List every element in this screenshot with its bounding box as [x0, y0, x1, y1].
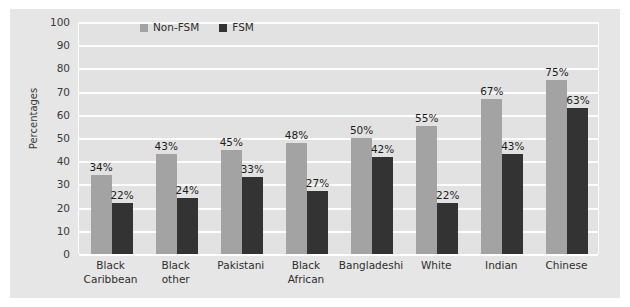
- legend-swatch-icon: [219, 24, 227, 32]
- bar-non-fsm[interactable]: 45%: [221, 150, 242, 254]
- bar-fsm[interactable]: 43%: [502, 154, 523, 254]
- bar-group: 67%43%: [481, 23, 523, 254]
- bar-non-fsm[interactable]: 34%: [91, 175, 112, 254]
- x-axis-label-indian: Indian: [469, 258, 534, 272]
- bar-value-label: 45%: [220, 137, 243, 148]
- legend-item-label: FSM: [232, 22, 254, 33]
- y-axis-title: Percentages: [28, 74, 39, 164]
- x-axis-label-line1: Black: [96, 259, 124, 271]
- legend-item-label: Non-FSM: [153, 22, 199, 33]
- y-axis-tick-50: 50: [44, 133, 70, 144]
- bar-non-fsm[interactable]: 43%: [156, 154, 177, 254]
- chart-legend: Non-FSMFSM: [140, 22, 254, 33]
- bars-layer: 34%22%43%24%45%33%48%27%50%42%55%22%67%4…: [79, 23, 598, 254]
- bar-value-label: 48%: [285, 130, 308, 141]
- x-axis-label-line1: Chinese: [545, 259, 587, 271]
- bar-value-label: 43%: [155, 141, 178, 152]
- y-axis-tick-100: 100: [44, 17, 70, 28]
- legend-swatch-icon: [140, 24, 148, 32]
- bar-fsm[interactable]: 27%: [307, 191, 328, 254]
- gridline-0: [79, 254, 598, 256]
- bar-value-label: 34%: [89, 162, 112, 173]
- bar-non-fsm[interactable]: 48%: [286, 143, 307, 254]
- bar-value-label: 22%: [436, 190, 459, 201]
- bar-fsm[interactable]: 63%: [567, 108, 588, 254]
- x-axis-label-line1: Bangladeshi: [339, 259, 403, 271]
- bar-group: 50%42%: [351, 23, 393, 254]
- x-axis-label-line2: other: [143, 272, 208, 286]
- bar-value-label: 63%: [566, 95, 589, 106]
- legend-item-fsm[interactable]: FSM: [219, 22, 254, 33]
- bar-non-fsm[interactable]: 50%: [351, 138, 372, 254]
- y-axis-tick-10: 10: [44, 225, 70, 236]
- bar-value-label: 50%: [350, 125, 373, 136]
- x-axis-label-line1: Pakistani: [217, 259, 264, 271]
- x-axis-tick-labels: BlackCaribbeanBlackotherPakistaniBlackAf…: [78, 258, 599, 298]
- bar-group: 45%33%: [221, 23, 263, 254]
- bar-group: 34%22%: [91, 23, 133, 254]
- bar-fsm[interactable]: 42%: [372, 157, 393, 254]
- bar-fsm[interactable]: 33%: [242, 177, 263, 254]
- x-axis-label-line2: Caribbean: [78, 272, 143, 286]
- x-axis-label-black-african: BlackAfrican: [273, 258, 338, 286]
- y-axis-tick-80: 80: [44, 63, 70, 74]
- bar-value-label: 43%: [501, 141, 524, 152]
- bar-fsm[interactable]: 22%: [112, 203, 133, 254]
- bar-group: 48%27%: [286, 23, 328, 254]
- bar-value-label: 75%: [545, 67, 568, 78]
- plot-area: 34%22%43%24%45%33%48%27%50%42%55%22%67%4…: [78, 22, 599, 254]
- bar-fsm[interactable]: 24%: [177, 198, 198, 254]
- x-axis-label-line1: White: [421, 259, 452, 271]
- bar-non-fsm[interactable]: 67%: [481, 99, 502, 254]
- y-axis-tick-90: 90: [44, 40, 70, 51]
- x-axis-label-line1: Black: [292, 259, 320, 271]
- x-axis-label-bangladeshi: Bangladeshi: [339, 258, 404, 272]
- x-axis-label-chinese: Chinese: [534, 258, 599, 272]
- bar-group: 55%22%: [416, 23, 458, 254]
- x-axis-label-line2: African: [273, 272, 338, 286]
- x-axis-label-line1: Indian: [485, 259, 517, 271]
- bar-value-label: 55%: [415, 113, 438, 124]
- bar-value-label: 24%: [176, 185, 199, 196]
- y-axis-tick-20: 20: [44, 202, 70, 213]
- x-axis-label-black-caribbean: BlackCaribbean: [78, 258, 143, 286]
- bar-group: 43%24%: [156, 23, 198, 254]
- x-axis-label-black-other: Blackother: [143, 258, 208, 286]
- y-axis-tick-60: 60: [44, 109, 70, 120]
- y-axis-tick-labels: 1009080706050403020100: [44, 22, 70, 254]
- bar-value-label: 42%: [371, 144, 394, 155]
- bar-value-label: 67%: [480, 86, 503, 97]
- bar-group: 75%63%: [546, 23, 588, 254]
- legend-item-non-fsm[interactable]: Non-FSM: [140, 22, 199, 33]
- x-axis-label-white: White: [404, 258, 469, 272]
- y-axis-tick-30: 30: [44, 179, 70, 190]
- x-axis-label-line1: Black: [161, 259, 189, 271]
- bar-value-label: 33%: [241, 164, 264, 175]
- y-axis-tick-0: 0: [44, 249, 70, 260]
- chart-canvas: Percentages 1009080706050403020100 34%22…: [10, 9, 620, 298]
- chart-container: Percentages 1009080706050403020100 34%22…: [0, 0, 630, 307]
- x-axis-label-pakistani: Pakistani: [208, 258, 273, 272]
- y-axis-tick-70: 70: [44, 86, 70, 97]
- y-axis-tick-40: 40: [44, 156, 70, 167]
- bar-value-label: 22%: [110, 190, 133, 201]
- bar-non-fsm[interactable]: 75%: [546, 80, 567, 254]
- bar-value-label: 27%: [306, 178, 329, 189]
- bar-fsm[interactable]: 22%: [437, 203, 458, 254]
- bar-non-fsm[interactable]: 55%: [416, 126, 437, 254]
